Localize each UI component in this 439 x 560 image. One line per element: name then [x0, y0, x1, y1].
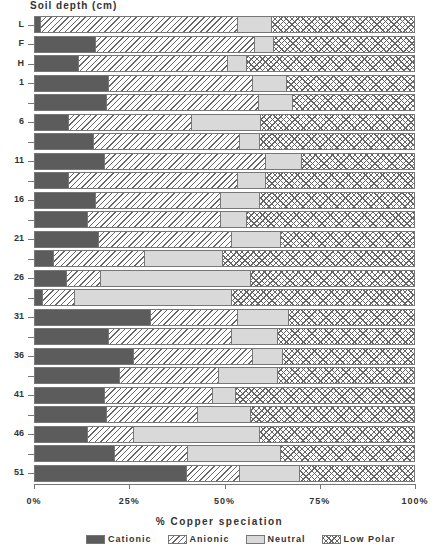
y-tick [28, 298, 34, 299]
bar-row [34, 192, 415, 209]
y-tick-label: 16 [0, 194, 24, 204]
y-tick [28, 122, 34, 123]
bar-segment-anionic [105, 154, 266, 169]
y-tick-label: 6 [0, 116, 24, 126]
x-tick-label: 0% [26, 496, 41, 506]
y-tick [28, 83, 34, 84]
bar-segment-lowpolar [251, 271, 414, 286]
y-tick [28, 239, 34, 240]
bar-segment-lowpolar [260, 134, 413, 149]
y-tick [28, 44, 34, 45]
bar-segment-anionic [88, 212, 221, 227]
bar-segment-cationic [35, 271, 67, 286]
bar-segment-neutral [253, 76, 287, 91]
y-tick [28, 473, 34, 474]
y-tick-label: F [0, 38, 24, 48]
bar-segment-cationic [35, 427, 88, 442]
bar-segment-lowpolar [247, 212, 414, 227]
y-axis-title: Soil depth (cm) [30, 0, 117, 11]
bar-segment-neutral [228, 56, 247, 71]
bar-segment-anionic [96, 37, 255, 52]
bar-segment-lowpolar [251, 407, 414, 422]
bar-row [34, 114, 415, 131]
bar-segment-cationic [35, 290, 43, 305]
bar-segment-cationic [35, 173, 69, 188]
y-tick-label: 51 [0, 467, 24, 477]
y-tick [28, 25, 34, 26]
anionic-swatch-icon [168, 535, 187, 544]
bar-segment-lowpolar [266, 173, 414, 188]
bar-row [34, 94, 415, 111]
bar-row [34, 270, 415, 287]
legend-label: Neutral [268, 534, 306, 544]
bar-segment-anionic [99, 232, 232, 247]
y-tick-label: 1 [0, 77, 24, 87]
bar-row [34, 250, 415, 267]
y-tick [28, 259, 34, 260]
bar-row [34, 426, 415, 443]
bar-segment-neutral [253, 349, 283, 364]
bar-segment-neutral [75, 290, 232, 305]
bar-segment-neutral [213, 388, 236, 403]
bar-segment-neutral [145, 251, 223, 266]
y-tick [28, 64, 34, 65]
bar-row [34, 36, 415, 53]
y-tick-label: 26 [0, 272, 24, 282]
bar-row [34, 133, 415, 150]
x-tick [129, 484, 130, 489]
y-tick [28, 356, 34, 357]
y-tick [28, 454, 34, 455]
bar-segment-neutral [221, 212, 248, 227]
bar-segment-lowpolar [281, 446, 414, 461]
bar-segment-cationic [35, 76, 109, 91]
legend-item-anionic: Anionic [168, 534, 230, 544]
bar-segment-lowpolar [261, 115, 414, 130]
bar-segment-neutral [232, 329, 277, 344]
bar-segment-anionic [151, 310, 238, 325]
bar-row [34, 465, 415, 482]
bar-row [34, 211, 415, 228]
bar-segment-cationic [35, 134, 94, 149]
bar-segment-cationic [35, 37, 96, 52]
bar-segment-anionic [109, 329, 232, 344]
bar-segment-lowpolar [283, 349, 414, 364]
bar-segment-neutral [238, 173, 266, 188]
legend-item-low-polar: Low Polar [322, 534, 396, 544]
bar-segment-cationic [35, 251, 54, 266]
bar-segment-lowpolar [278, 368, 414, 383]
bar-row [34, 55, 415, 72]
x-tick [225, 484, 226, 489]
bar-segment-neutral [255, 37, 274, 52]
bar-segment-lowpolar [289, 310, 414, 325]
bar-row [34, 387, 415, 404]
bar-segment-cationic [35, 95, 107, 110]
low-polar-swatch-icon [322, 535, 341, 544]
bar-segment-neutral [219, 368, 278, 383]
bar-segment-neutral [221, 193, 261, 208]
bar-row [34, 348, 415, 365]
bar-segment-neutral [266, 154, 302, 169]
x-tick-label: 25% [119, 496, 140, 506]
legend-label: Cationic [108, 534, 152, 544]
y-tick [28, 142, 34, 143]
y-tick [28, 200, 34, 201]
bar-segment-anionic [79, 56, 229, 71]
bar-segment-cationic [35, 368, 120, 383]
bar-segment-anionic [105, 388, 213, 403]
bar-segment-neutral [240, 134, 261, 149]
bar-row [34, 16, 415, 33]
y-tick [28, 395, 34, 396]
y-tick [28, 434, 34, 435]
bar-segment-anionic [115, 446, 189, 461]
bar-segment-cationic [35, 407, 107, 422]
bar-segment-anionic [187, 466, 240, 481]
bar-segment-lowpolar [302, 154, 414, 169]
bar-segment-lowpolar [272, 17, 414, 32]
bar-segment-neutral [101, 271, 251, 286]
bar-segment-cationic [35, 466, 187, 481]
bar-segment-lowpolar [300, 466, 414, 481]
bar-segment-cationic [35, 388, 105, 403]
bar-segment-lowpolar [281, 232, 414, 247]
x-tick-label: 100% [401, 496, 428, 506]
y-tick-label: L [0, 19, 24, 29]
